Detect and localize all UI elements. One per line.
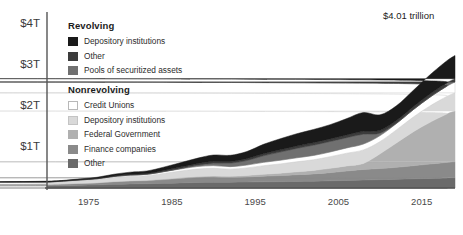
legend-item-label: Federal Government <box>84 130 160 139</box>
x-tick-1975: 1975 <box>69 196 109 207</box>
x-tick-1985: 1985 <box>152 196 192 207</box>
chart-legend: RevolvingDepository institutionsOtherPoo… <box>68 20 182 177</box>
legend-group-revolving: RevolvingDepository institutionsOtherPoo… <box>68 20 182 76</box>
legend-item-label: Depository institutions <box>84 116 165 125</box>
x-tick-2005: 2005 <box>318 196 358 207</box>
legend-swatch-icon <box>68 116 78 125</box>
legend-item-label: Pools of securitized assets <box>84 66 182 75</box>
legend-swatch-icon <box>68 130 78 139</box>
legend-group-nonrevolving: NonrevolvingCredit UnionsDepository inst… <box>68 84 182 169</box>
legend-item-label: Depository institutions <box>84 37 165 46</box>
legend-swatch-icon <box>68 37 78 46</box>
legend-item[interactable]: Other <box>68 158 182 169</box>
y-tick-1T: $1T <box>0 140 40 152</box>
y-tick-4T: $4T <box>0 17 40 29</box>
legend-item[interactable]: Depository institutions <box>68 36 182 47</box>
legend-swatch-icon <box>68 52 78 61</box>
y-tick-3T: $3T <box>0 58 40 70</box>
legend-swatch-icon <box>68 101 78 110</box>
legend-swatch-icon <box>68 159 78 168</box>
legend-item[interactable]: Other <box>68 51 182 62</box>
legend-group-title: Nonrevolving <box>68 84 182 95</box>
legend-item[interactable]: Pools of securitized assets <box>68 65 182 76</box>
legend-item[interactable]: Federal Government <box>68 129 182 140</box>
legend-item[interactable]: Credit Unions <box>68 100 182 111</box>
consumer-credit-stacked-area-chart: $1T$2T$3T$4T 19751985199520052015 Revolv… <box>0 0 463 235</box>
legend-swatch-icon <box>68 66 78 75</box>
legend-item[interactable]: Finance companies <box>68 144 182 155</box>
legend-item-label: Finance companies <box>84 145 156 154</box>
legend-group-title: Revolving <box>68 20 182 31</box>
x-tick-2015: 2015 <box>402 196 442 207</box>
y-tick-2T: $2T <box>0 99 40 111</box>
legend-swatch-icon <box>68 145 78 154</box>
legend-item-label: Credit Unions <box>84 101 134 110</box>
x-tick-1995: 1995 <box>235 196 275 207</box>
total-value-annotation: $4.01 trillion <box>383 10 434 21</box>
legend-item-label: Other <box>84 52 105 61</box>
legend-item[interactable]: Depository institutions <box>68 115 182 126</box>
legend-item-label: Other <box>84 159 105 168</box>
